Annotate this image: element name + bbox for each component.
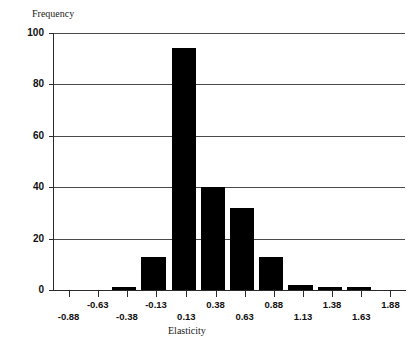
histogram-bar — [288, 285, 312, 290]
x-tick-label: 0.63 — [235, 311, 254, 322]
x-tick-mark — [303, 291, 304, 297]
chart-canvas: Frequency 100806040200 -0.88-0.63-0.38-0… — [0, 0, 419, 349]
x-tick-label: 1.38 — [323, 299, 342, 310]
x-tick-mark — [69, 291, 70, 297]
x-axis-line — [54, 290, 406, 291]
histogram-bar — [141, 257, 165, 290]
y-tick-mark — [49, 290, 54, 291]
histogram-bar — [112, 287, 136, 290]
histogram-bar — [347, 287, 371, 290]
x-tick-label: -0.38 — [116, 311, 138, 322]
y-tick-label: 0 — [14, 284, 44, 295]
x-tick-label: 1.13 — [294, 311, 313, 322]
x-tick-label: 1.88 — [381, 299, 400, 310]
x-tick-mark — [127, 291, 128, 297]
histogram-bar — [259, 257, 283, 290]
x-tick-mark — [245, 291, 246, 297]
y-axis-title: Frequency — [32, 8, 74, 19]
x-tick-label: 0.38 — [206, 299, 225, 310]
x-tick-mark — [332, 291, 333, 297]
y-tick-label: 80 — [14, 78, 44, 89]
histogram-bar — [172, 48, 196, 290]
y-tick-label: 60 — [14, 130, 44, 141]
y-tick-label: 40 — [14, 181, 44, 192]
x-tick-label: -0.88 — [58, 311, 80, 322]
x-tick-mark — [390, 291, 391, 297]
x-tick-mark — [156, 291, 157, 297]
histogram-figure: Frequency 100806040200 -0.88-0.63-0.38-0… — [0, 0, 419, 349]
x-tick-mark — [216, 291, 217, 297]
histogram-bar — [201, 187, 225, 290]
x-tick-mark — [274, 291, 275, 297]
x-tick-mark — [98, 291, 99, 297]
x-tick-label: 0.13 — [177, 311, 196, 322]
x-tick-label: -0.13 — [145, 299, 167, 310]
x-tick-label: 1.63 — [352, 311, 371, 322]
histogram-bar — [230, 208, 254, 290]
x-tick-label: -0.63 — [87, 299, 109, 310]
bars-group — [54, 33, 405, 290]
x-tick-label: 0.88 — [265, 299, 284, 310]
histogram-bar — [318, 287, 342, 290]
x-tick-mark — [361, 291, 362, 297]
y-tick-label: 20 — [14, 233, 44, 244]
y-tick-label: 100 — [14, 27, 44, 38]
x-axis-title: Elasticity — [168, 325, 206, 336]
x-tick-mark — [186, 291, 187, 297]
